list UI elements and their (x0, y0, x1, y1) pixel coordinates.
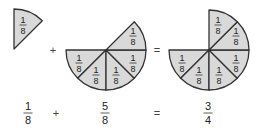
label-den: 8 (179, 64, 184, 74)
result-numerator: 3 (205, 100, 211, 112)
sector-label: 1 8 (113, 65, 120, 86)
label-num: 1 (233, 26, 238, 36)
label-den: 8 (130, 37, 135, 47)
plus-sign: + (53, 107, 59, 119)
sector-label: 1 8 (130, 26, 137, 47)
label-den: 8 (233, 37, 238, 47)
equals-sign: = (154, 107, 160, 119)
sector-label-num: 1 (20, 15, 25, 25)
result-denominator: 4 (205, 114, 211, 126)
label-den: 8 (76, 64, 81, 74)
sector-label: 1 8 (93, 65, 100, 86)
sector-label: 1 8 (76, 53, 83, 74)
label-num: 1 (113, 65, 118, 75)
plus-sign-top: + (50, 44, 56, 56)
term2-denominator: 8 (102, 114, 108, 126)
figure-one-eighth: 1 8 (14, 9, 42, 49)
term2-numerator: 5 (102, 100, 108, 112)
figure-five-eighths: 1 8 1 8 1 8 1 8 1 8 (66, 22, 146, 90)
term1-numerator: 1 (25, 100, 31, 112)
label-num: 1 (130, 53, 135, 63)
term1-denominator: 8 (25, 114, 31, 126)
sector-label: 1 8 (130, 53, 137, 74)
label-den: 8 (93, 76, 98, 86)
label-num: 1 (179, 53, 184, 63)
label-num: 1 (196, 65, 201, 75)
label-den: 8 (215, 26, 220, 36)
label-den: 8 (130, 64, 135, 74)
sector-label: 1 8 (196, 65, 203, 86)
label-den: 8 (233, 64, 238, 74)
label-den: 8 (216, 76, 221, 86)
figure-six-eighths: 1 8 1 8 1 8 1 8 1 8 1 8 (169, 10, 249, 90)
term2-fraction: 5 8 (101, 100, 110, 126)
sector-label: 1 8 (215, 15, 222, 36)
label-num: 1 (215, 15, 220, 25)
label-num: 1 (233, 53, 238, 63)
sector-1 (14, 9, 42, 49)
sector-label: 1 8 (233, 26, 240, 47)
equals-sign-top: = (154, 44, 160, 56)
label-num: 1 (216, 65, 221, 75)
label-num: 1 (76, 53, 81, 63)
term1-fraction: 1 8 (24, 100, 33, 126)
equation: 1 8 + 5 8 = 3 4 (24, 100, 213, 126)
sector-label: 1 8 (216, 65, 223, 86)
sector-label: 1 8 (179, 53, 186, 74)
label-num: 1 (93, 65, 98, 75)
sector-5 (106, 22, 146, 50)
sector-label-den: 8 (20, 26, 25, 36)
fraction-diagram: 1 8 + 1 8 1 8 1 8 1 (0, 0, 260, 135)
label-den: 8 (113, 76, 118, 86)
label-num: 1 (130, 26, 135, 36)
label-den: 8 (196, 76, 201, 86)
result-fraction: 3 4 (204, 100, 213, 126)
sector-label: 1 8 (233, 53, 240, 74)
